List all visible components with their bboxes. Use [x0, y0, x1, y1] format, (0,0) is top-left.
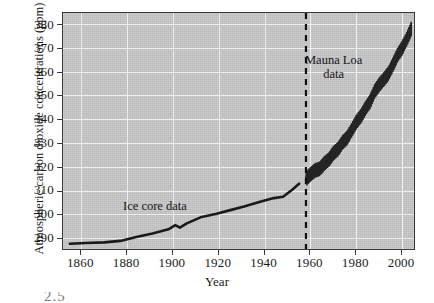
annotation-mauna-loa-line2: data [305, 67, 362, 81]
annotation-mauna-loa-data: Mauna Loa data [305, 53, 362, 81]
y-tick-label-300: 300 [8, 207, 54, 220]
y-tick-label-360: 360 [8, 65, 54, 78]
page-artifact-text: 2.5 [44, 292, 66, 302]
mauna-loa-data-band [306, 22, 411, 185]
y-tick-label-320: 320 [8, 160, 54, 173]
data-series-layer [63, 13, 415, 250]
x-axis-title: Year [0, 274, 434, 290]
ice-core-data-line [70, 184, 299, 244]
y-tick-label-380: 380 [8, 18, 54, 31]
co2-concentration-chart: Atmospheric carbon dioxide concentration… [0, 0, 434, 303]
y-tick-label-310: 310 [8, 183, 54, 196]
y-tick-label-370: 370 [8, 41, 54, 54]
y-tick-label-350: 350 [8, 88, 54, 101]
annotation-ice-core-data: Ice core data [123, 199, 187, 213]
annotation-mauna-loa-line1: Mauna Loa [305, 53, 362, 67]
plot-area: Ice core data Mauna Loa data [62, 12, 415, 250]
y-tick-label-330: 330 [8, 136, 54, 149]
y-tick-label-340: 340 [8, 112, 54, 125]
y-tick-label-290: 290 [8, 231, 54, 244]
x-tick-label-2000: 2000 [371, 256, 431, 269]
